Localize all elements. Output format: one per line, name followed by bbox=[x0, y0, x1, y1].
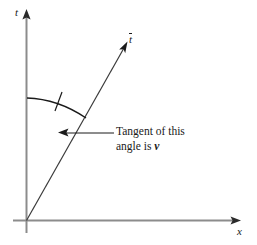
angle-annotation-line1: Tangent of this bbox=[116, 124, 185, 139]
angle-annotation-line2-prefix: angle is bbox=[116, 140, 154, 152]
t-axis-label: t bbox=[15, 7, 18, 18]
t-bar-axis-label-text: t bbox=[129, 33, 132, 45]
spacetime-diagram: t x t Tangent of this angle is v bbox=[0, 0, 257, 245]
angle-annotation-line2: angle is v bbox=[116, 139, 185, 154]
t-bar-axis-label: t bbox=[129, 33, 132, 45]
x-axis-label: x bbox=[237, 226, 242, 237]
angle-arc-tick bbox=[55, 92, 62, 111]
x-axis bbox=[13, 216, 241, 224]
t-bar-axis-line bbox=[27, 48, 125, 221]
velocity-symbol: v bbox=[154, 140, 159, 152]
angle-arc bbox=[27, 92, 86, 118]
annotation-leader bbox=[58, 128, 114, 136]
t-bar-axis bbox=[27, 42, 128, 221]
t-axis bbox=[22, 9, 30, 233]
angle-annotation: Tangent of this angle is v bbox=[116, 124, 185, 154]
t-bar-axis-arrowhead bbox=[119, 42, 127, 54]
